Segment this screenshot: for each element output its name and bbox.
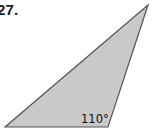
obtuse-triangle xyxy=(5,5,148,127)
triangle-diagram: 110° xyxy=(0,0,156,133)
angle-label: 110° xyxy=(81,112,109,126)
